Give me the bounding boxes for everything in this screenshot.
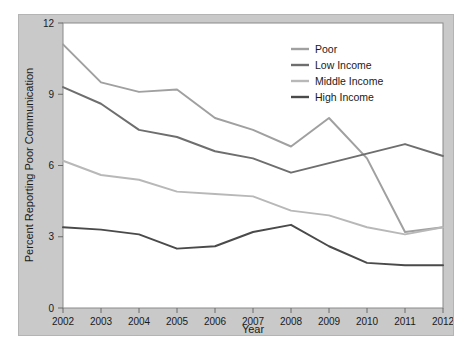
x-tick-label: 2002 xyxy=(52,316,75,327)
y-axis-ticks: 036912 xyxy=(43,18,63,314)
x-tick-label: 2010 xyxy=(356,316,379,327)
x-tick-label: 2006 xyxy=(204,316,227,327)
figure-container: 036912 200220032004200520062007200820092… xyxy=(0,0,472,358)
chart-frame: 036912 200220032004200520062007200820092… xyxy=(18,14,454,336)
y-axis-title: Percent Reporting Poor Communication xyxy=(23,68,35,262)
x-tick-label: 2003 xyxy=(90,316,113,327)
legend-label-poor: Poor xyxy=(315,43,338,55)
x-tick-label: 2012 xyxy=(432,316,453,327)
y-tick-label: 6 xyxy=(48,160,54,171)
y-tick-label: 3 xyxy=(48,231,54,242)
x-tick-label: 2009 xyxy=(318,316,341,327)
legend-label-low-income: Low Income xyxy=(315,59,372,71)
x-tick-label: 2011 xyxy=(394,316,416,327)
legend-label-high-income: High Income xyxy=(315,91,374,103)
legend-label-middle-income: Middle Income xyxy=(315,75,383,87)
y-tick-label: 0 xyxy=(48,303,54,314)
line-chart: 036912 200220032004200520062007200820092… xyxy=(19,15,453,335)
x-axis-title: Year xyxy=(242,323,265,335)
x-tick-label: 2008 xyxy=(280,316,303,327)
chart-legend: PoorLow IncomeMiddle IncomeHigh Income xyxy=(281,37,433,111)
y-tick-label: 12 xyxy=(43,18,55,29)
x-tick-label: 2005 xyxy=(166,316,189,327)
y-tick-label: 9 xyxy=(48,89,54,100)
x-tick-label: 2004 xyxy=(128,316,151,327)
